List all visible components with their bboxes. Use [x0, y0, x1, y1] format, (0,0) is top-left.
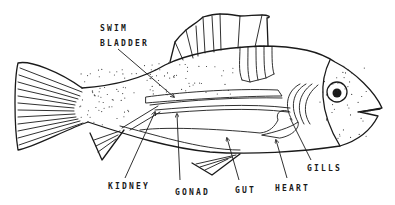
speckle [104, 87, 105, 88]
leader-heart [276, 140, 287, 178]
speckle [361, 96, 362, 97]
speckle [342, 72, 343, 73]
speckle [228, 90, 229, 91]
speckle [185, 78, 186, 79]
speckle [322, 91, 323, 92]
speckle [344, 77, 345, 78]
speckle [81, 117, 82, 118]
speckle [116, 89, 117, 90]
speckle [347, 104, 348, 105]
speckle [92, 92, 93, 93]
body-outline [82, 46, 382, 153]
speckle [187, 67, 188, 68]
speckle [81, 86, 82, 87]
speckle [124, 78, 125, 79]
speckle [332, 104, 333, 105]
label-kidney: KIDNEY [108, 182, 150, 191]
speckle [334, 92, 335, 93]
speckle [123, 87, 124, 88]
speckle [122, 93, 123, 94]
fish-anatomy-diagram: SWIM BLADDER KIDNEY GONAD GUT HEART GILL… [0, 0, 395, 205]
speckle [79, 106, 80, 107]
speckle [101, 111, 102, 112]
speckle [95, 107, 96, 108]
leader-swim-bladder [118, 49, 174, 97]
speckle [181, 89, 182, 90]
speckle [99, 91, 100, 92]
speckle [350, 137, 351, 138]
speckle [350, 114, 351, 115]
speckle [348, 107, 349, 108]
speckle [124, 98, 125, 99]
speckle [199, 83, 200, 84]
speckle [343, 66, 344, 67]
speckle [81, 73, 82, 74]
speckle [205, 92, 206, 93]
speckle [168, 62, 169, 63]
speckle [124, 112, 125, 113]
speckle [131, 73, 132, 74]
speckle [103, 102, 104, 103]
internal-organs [120, 90, 298, 150]
dorsal-fin [170, 14, 269, 62]
speckle [127, 110, 128, 111]
label-swim-bladder-line2: BLADDER [100, 39, 149, 48]
speckle [88, 110, 89, 111]
pupil [333, 89, 342, 98]
gut [140, 110, 290, 133]
speckle [87, 114, 88, 115]
speckle [331, 112, 332, 113]
leader-kidney [125, 112, 155, 178]
speckle [361, 118, 362, 119]
speckle [99, 76, 100, 77]
tail-fin [15, 63, 88, 150]
speckle [214, 66, 215, 67]
speckle [100, 97, 101, 98]
speckle [345, 88, 346, 89]
speckle [150, 78, 151, 79]
speckle [114, 74, 115, 75]
speckle [358, 102, 359, 103]
speckle [125, 87, 126, 88]
speckle [150, 74, 151, 75]
speckle [339, 135, 340, 136]
speckle [339, 134, 340, 135]
speckle [147, 80, 148, 81]
speckle [224, 84, 225, 85]
speckle [167, 72, 168, 73]
speckle [324, 81, 325, 82]
speckle [156, 75, 157, 76]
speckle [90, 73, 91, 74]
label-heart: HEART [275, 184, 310, 193]
speckle [351, 94, 352, 95]
label-swim-bladder-line1: SWIM [100, 24, 128, 33]
speckle [345, 72, 346, 73]
speckle [92, 91, 93, 92]
speckle [99, 88, 100, 89]
speckle [152, 76, 153, 77]
label-gonad: GONAD [175, 188, 210, 197]
speckle [326, 118, 327, 119]
label-gut: GUT [235, 186, 256, 195]
speckle [194, 83, 195, 84]
speckle [193, 84, 194, 85]
label-gills: GILLS [307, 164, 342, 173]
speckle [319, 102, 320, 103]
speckle [349, 81, 350, 82]
speckle [104, 108, 105, 109]
speckle [122, 69, 123, 70]
speckle [90, 117, 91, 118]
speckle [133, 92, 134, 93]
speckle [221, 75, 222, 76]
speckle [362, 111, 363, 112]
speckle [159, 69, 160, 70]
speckle [343, 129, 344, 130]
speckle [121, 100, 122, 101]
speckle [324, 76, 325, 77]
speckle [95, 95, 96, 96]
pectoral-fin-folds [240, 46, 275, 82]
tail-fin-rays [18, 68, 83, 145]
speckle [189, 86, 190, 87]
speckle [166, 91, 167, 92]
speckle [198, 66, 199, 67]
